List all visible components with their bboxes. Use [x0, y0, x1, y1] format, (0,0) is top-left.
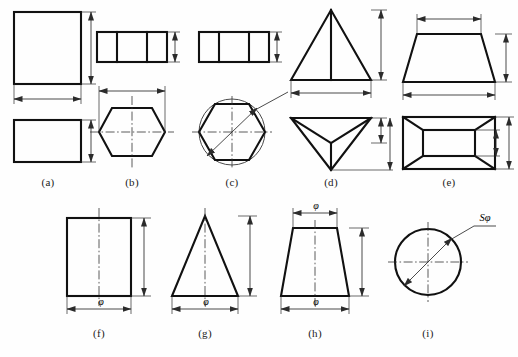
caption-g: (g) [185, 327, 225, 339]
caption-d: (d) [311, 176, 351, 188]
panel-i-leader-line [450, 226, 474, 240]
panel-e-top-view-inner [423, 130, 475, 156]
caption-c: (c) [212, 176, 252, 188]
panel-f-cylinder [67, 208, 151, 314]
panel-e-diag-1 [403, 117, 423, 130]
panel-b-hexagonal-prism [90, 32, 180, 168]
panel-e-front-view [403, 34, 495, 82]
panel-e-diag-3 [403, 156, 423, 169]
panel-b-front-view [97, 32, 167, 62]
panel-h-bottom-phi-label: φ [309, 296, 323, 307]
caption-f: (f) [79, 327, 119, 339]
caption-h: (h) [295, 327, 335, 339]
caption-b: (b) [112, 176, 152, 188]
drawing-sheet: φ φ φ φ Sφ (a) (b) (c) (d) (e) (f) (g) (… [0, 0, 518, 357]
panel-d-top-edge-2 [331, 118, 371, 143]
panel-d-triangular-pyramid [291, 10, 393, 170]
panel-c-front-view [199, 32, 269, 62]
panel-i-sphere [388, 222, 496, 302]
panel-d-top-edge-1 [291, 118, 331, 143]
panel-e-truncated-pyramid [403, 14, 514, 169]
panel-h-truncated-cone [281, 208, 369, 314]
panel-g-phi-label: φ [199, 296, 213, 307]
panel-c-hexagonal-prism-inscribed [192, 32, 288, 168]
panel-a-rectangular-prism [14, 12, 96, 162]
caption-i: (i) [408, 327, 448, 339]
panel-c-leader-line [255, 92, 288, 110]
panel-f-phi-label: φ [94, 296, 108, 307]
caption-e: (e) [429, 176, 469, 188]
panel-i-sphi-label: Sφ [472, 212, 498, 223]
panel-e-diag-4 [475, 156, 495, 169]
caption-a: (a) [28, 176, 68, 188]
panel-g-cone [172, 208, 257, 314]
panel-a-front-view [14, 12, 81, 84]
panel-e-diag-2 [475, 117, 495, 130]
panel-a-top-view [14, 120, 81, 162]
panel-h-top-phi-label: φ [309, 200, 323, 211]
